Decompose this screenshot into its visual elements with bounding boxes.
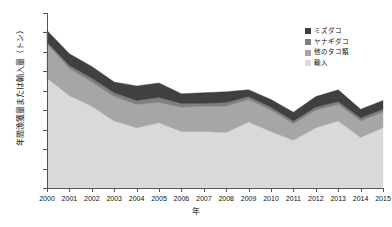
x-tick-mark (383, 188, 384, 192)
y-tick-mark (43, 149, 47, 150)
y-tick-mark (43, 91, 47, 92)
y-tick-mark (43, 71, 47, 72)
x-tick-mark (92, 188, 93, 192)
legend-swatch-icon (305, 50, 311, 56)
x-tick-mark (338, 188, 339, 192)
x-tick-mark (316, 188, 317, 192)
stacked-area-chart: 年間漁獲量または輸入量（トン） 020,00040,00060,00080,00… (0, 0, 392, 227)
x-tick-mark (69, 188, 70, 192)
x-tick-mark (271, 188, 272, 192)
y-tick-mark (43, 130, 47, 131)
x-tick-label: 2015 (370, 195, 392, 202)
y-tick-mark (43, 52, 47, 53)
y-tick-mark (43, 110, 47, 111)
x-tick-mark (204, 188, 205, 192)
x-tick-mark (137, 188, 138, 192)
x-tick-mark (249, 188, 250, 192)
y-tick-mark (43, 169, 47, 170)
x-axis-line (47, 188, 384, 189)
x-tick-mark (159, 188, 160, 192)
x-axis-title: 年 (0, 205, 392, 216)
x-tick-mark (47, 188, 48, 192)
x-tick-mark (361, 188, 362, 192)
y-axis-title: 年間漁獲量または輸入量（トン） (14, 1, 25, 171)
legend-item[interactable]: ヤナギダコ (305, 39, 349, 46)
chart-legend: ミズダコヤナギダコ他のタコ類輸入 (305, 28, 349, 71)
y-tick-mark (43, 13, 47, 14)
legend-label: ミズダコ (314, 28, 342, 35)
legend-label: 他のタコ類 (314, 49, 349, 56)
legend-label: ヤナギダコ (314, 39, 349, 46)
legend-item[interactable]: 他のタコ類 (305, 49, 349, 56)
x-tick-mark (226, 188, 227, 192)
legend-item[interactable]: 輸入 (305, 60, 349, 67)
y-tick-mark (43, 32, 47, 33)
legend-item[interactable]: ミズダコ (305, 28, 349, 35)
x-tick-mark (293, 188, 294, 192)
legend-swatch-icon (305, 28, 311, 34)
legend-label: 輸入 (314, 60, 328, 67)
x-tick-mark (114, 188, 115, 192)
y-axis-line (47, 13, 48, 189)
legend-swatch-icon (305, 60, 311, 66)
legend-swatch-icon (305, 39, 311, 45)
x-tick-mark (181, 188, 182, 192)
